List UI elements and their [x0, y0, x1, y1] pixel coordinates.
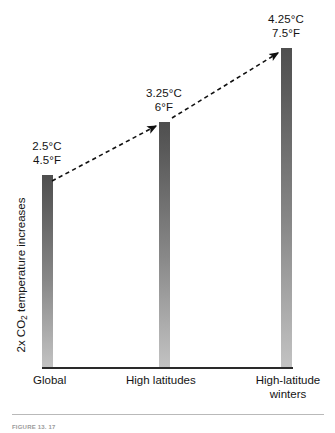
x-axis-line: [42, 367, 293, 369]
value-label-global: 2.5°C 4.5°F: [14, 140, 80, 167]
y-axis-title-suffix: temperature increases: [15, 198, 27, 316]
value-label-global-celsius: 2.5°C: [14, 140, 80, 154]
y-axis-title-prefix: 2x CO: [15, 320, 27, 353]
bar-global: [42, 175, 53, 367]
caption-divider: [12, 414, 324, 415]
value-label-high-latitude-winters: 4.25°C 7.5°F: [253, 13, 319, 40]
figure-caption: FIGURE 13. 17: [12, 423, 56, 431]
chart-plot-area: 2.5°C 4.5°F 3.25°C 6°F 4.25°C 7.5°F 2x C…: [0, 0, 335, 372]
figure-container: 2.5°C 4.5°F 3.25°C 6°F 4.25°C 7.5°F 2x C…: [0, 0, 335, 433]
y-axis-title-subscript: 2: [19, 315, 29, 320]
value-label-high-latitude-winters-fahrenheit: 7.5°F: [253, 27, 319, 41]
value-label-high-latitudes-celsius: 3.25°C: [131, 87, 197, 101]
bar-high-latitude-winters: [281, 48, 292, 367]
value-label-global-fahrenheit: 4.5°F: [14, 154, 80, 168]
value-label-high-latitude-winters-celsius: 4.25°C: [253, 13, 319, 27]
y-axis-title: 2x CO2 temperature increases: [15, 195, 29, 355]
value-label-high-latitudes: 3.25°C 6°F: [131, 87, 197, 114]
value-label-high-latitudes-fahrenheit: 6°F: [131, 101, 197, 115]
category-label-high-latitude-winters: High-latitude winters: [246, 374, 330, 401]
category-label-global: Global: [33, 374, 66, 388]
bar-high-latitudes: [159, 122, 170, 367]
category-label-high-latitudes: High latitudes: [126, 374, 196, 388]
